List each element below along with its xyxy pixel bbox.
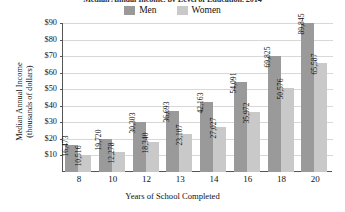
legend-label-women: Women — [192, 6, 221, 16]
bar-value-label: 18,340 — [139, 132, 152, 153]
x-axis-tick-label-8: 8 — [64, 175, 94, 184]
bar-group: 54,09135,972 — [231, 23, 265, 172]
bar-value-label: 65,587 — [308, 54, 321, 75]
x-axis-tick-label-18: 18 — [266, 175, 296, 184]
y-axis-title-line-1: Median Annual Income — [15, 28, 25, 176]
y-axis-tick-label: $10 — [31, 151, 57, 159]
legend-entry-women: Women — [177, 6, 221, 16]
bar-women-16: 35,972 — [247, 112, 260, 172]
bar-women-12: 18,340 — [146, 142, 159, 172]
legend-entry-men: Men — [124, 6, 156, 16]
legend-swatch-men — [124, 6, 135, 15]
x-axis-tick-label-16: 16 — [233, 175, 263, 184]
bar-value-label: 89,845 — [295, 14, 308, 35]
y-axis-tick-label: $90 — [31, 19, 57, 27]
bar-group: 30,30318,340 — [130, 23, 164, 172]
bar-value-label: 10,516 — [72, 145, 85, 166]
bar-group: 89,84565,587 — [298, 23, 332, 172]
y-axis-tick-label: $30 — [31, 118, 57, 126]
chart-title: Median Annual Income, by Level of Educat… — [0, 0, 345, 2]
legend-swatch-women — [177, 6, 188, 15]
x-axis-tick-label-14: 14 — [199, 175, 229, 184]
bar-group: 42,16327,027 — [197, 23, 231, 172]
bar-value-label: 16,473 — [59, 135, 72, 156]
bar-value-label: 23,107 — [173, 124, 186, 145]
bar-value-label: 12,278 — [105, 142, 118, 163]
x-axis-tick-label-12: 12 — [131, 175, 161, 184]
bars-layer: 16,47310,51619,72012,27830,30318,34036,6… — [62, 23, 332, 172]
y-axis-tick-label: $70 — [31, 52, 57, 60]
bar-women-20: 65,587 — [314, 63, 327, 172]
bar-group: 36,69323,107 — [163, 23, 197, 172]
x-axis-tick-label-13: 13 — [165, 175, 195, 184]
income-by-education-bar-chart: Median Annual Income, by Level of Educat… — [0, 0, 345, 212]
bar-value-label: 30,303 — [126, 112, 139, 133]
bar-women-8: 10,516 — [78, 155, 91, 172]
bar-value-label: 69,825 — [261, 47, 274, 68]
bar-women-13: 23,107 — [179, 134, 192, 172]
bar-value-label: 35,972 — [240, 103, 253, 124]
legend-label-men: Men — [139, 6, 156, 16]
bar-group: 69,82550,576 — [265, 23, 299, 172]
bar-value-label: 50,576 — [274, 79, 287, 100]
bar-group: 19,72012,278 — [96, 23, 130, 172]
bar-men-20: 89,845 — [301, 23, 314, 172]
y-axis-tick-label: $50 — [31, 85, 57, 93]
y-axis-tick-label: $60 — [31, 69, 57, 77]
bar-women-10: 12,278 — [112, 152, 125, 172]
y-axis-tick-label: $40 — [31, 102, 57, 110]
bar-value-label: 54,091 — [227, 73, 240, 94]
x-axis-tick-label-10: 10 — [98, 175, 128, 184]
bar-value-label: 36,693 — [160, 102, 173, 123]
y-axis-tick-label: $20 — [31, 135, 57, 143]
x-axis-title: Years of School Completed — [0, 191, 345, 201]
bar-men-16: 54,091 — [234, 82, 247, 172]
bar-men-18: 69,825 — [268, 56, 281, 172]
bar-women-18: 50,576 — [281, 88, 294, 172]
chart-legend: Men Women — [0, 6, 345, 16]
bar-value-label: 19,720 — [92, 130, 105, 151]
y-axis-tick-label: $80 — [31, 36, 57, 44]
bar-value-label: 42,163 — [194, 93, 207, 114]
x-axis-tick-label-20: 20 — [300, 175, 330, 184]
bar-value-label: 27,027 — [207, 118, 220, 139]
x-axis-tick-labels: 810121314161820 — [62, 175, 332, 187]
bar-group: 16,47310,516 — [62, 23, 96, 172]
bar-women-14: 27,027 — [213, 127, 226, 172]
